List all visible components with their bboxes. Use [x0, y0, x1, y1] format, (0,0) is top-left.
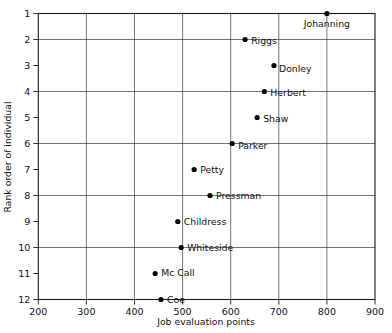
x-tick-label: 400	[125, 306, 143, 317]
data-point-group[interactable]: Riggs	[243, 35, 277, 46]
x-tick-label: 700	[270, 306, 288, 317]
data-point-group[interactable]: Coe	[158, 294, 185, 305]
data-point-label: Coe	[167, 294, 185, 305]
data-point-group[interactable]: Parker	[230, 140, 268, 151]
x-tick-label: 500	[174, 306, 192, 317]
data-point-label: Shaw	[263, 113, 288, 124]
x-tick-label: 600	[222, 306, 240, 317]
data-point-marker[interactable]	[255, 115, 260, 120]
data-point-label: Childress	[184, 216, 227, 227]
data-point-marker[interactable]	[207, 193, 212, 198]
data-point-label: Parker	[238, 140, 267, 151]
data-point-group[interactable]: Herbert	[262, 87, 307, 98]
data-point-label: Whiteside	[187, 242, 233, 253]
data-point-label: Riggs	[251, 35, 277, 46]
data-point-group[interactable]: Petty	[192, 164, 225, 175]
y-tick-label: 10	[18, 242, 30, 253]
chart-canvas: 200300400500600700800900 123456789101112…	[0, 0, 392, 333]
y-axis-tick-labels: 123456789101112	[18, 8, 30, 305]
x-axis-ticks	[38, 300, 375, 305]
x-tick-label: 300	[77, 306, 95, 317]
x-tick-label: 800	[318, 306, 336, 317]
x-tick-label: 200	[29, 306, 47, 317]
y-tick-label: 4	[24, 86, 30, 97]
data-point-label: Pressman	[216, 190, 261, 201]
data-point-label: Donley	[279, 63, 312, 74]
data-point-marker[interactable]	[324, 11, 329, 16]
data-point-label: Mc Call	[161, 267, 194, 278]
y-tick-label: 5	[24, 112, 30, 123]
x-tick-label: 900	[366, 306, 384, 317]
y-tick-label: 1	[24, 8, 30, 19]
data-point-marker[interactable]	[271, 63, 276, 68]
data-point-group[interactable]: Childress	[175, 216, 226, 227]
y-tick-label: 8	[24, 190, 30, 201]
y-tick-label: 6	[24, 138, 30, 149]
data-point-marker[interactable]	[175, 219, 180, 224]
data-point-group[interactable]: Whiteside	[179, 242, 234, 253]
data-point-label: Johanning	[303, 18, 350, 29]
data-point-marker[interactable]	[179, 245, 184, 250]
y-tick-label: 12	[18, 294, 30, 305]
vertical-gridlines	[86, 14, 327, 300]
data-point-label: Herbert	[270, 87, 306, 98]
data-point-marker[interactable]	[158, 297, 163, 302]
y-axis-title: Rank order of individual	[2, 102, 13, 213]
data-point-marker[interactable]	[230, 141, 235, 146]
x-axis-tick-labels: 200300400500600700800900	[29, 306, 384, 317]
y-axis-ticks	[33, 14, 38, 300]
plot-area-border	[38, 14, 375, 300]
data-point-group[interactable]: Donley	[271, 63, 312, 74]
data-point-marker[interactable]	[262, 89, 267, 94]
data-points-layer: JohanningRiggsDonleyHerbertShawParkerPet…	[153, 11, 351, 305]
data-point-marker[interactable]	[153, 271, 158, 276]
scatter-plot-figure: 200300400500600700800900 123456789101112…	[0, 0, 392, 333]
y-tick-label: 7	[24, 164, 30, 175]
y-tick-label: 3	[24, 60, 30, 71]
data-point-group[interactable]: Pressman	[207, 190, 261, 201]
data-point-marker[interactable]	[192, 167, 197, 172]
y-tick-label: 2	[24, 34, 30, 45]
data-point-group[interactable]: Shaw	[255, 113, 289, 124]
y-tick-label: 9	[24, 216, 30, 227]
data-point-group[interactable]: Mc Call	[153, 267, 195, 278]
y-tick-label: 11	[18, 268, 30, 279]
data-point-marker[interactable]	[243, 37, 248, 42]
x-axis-title: Job evaluation points	[156, 316, 255, 327]
data-point-label: Petty	[200, 164, 224, 175]
